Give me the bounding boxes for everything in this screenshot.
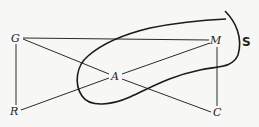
set-s-label: S [242, 35, 251, 49]
node-a-label: A [110, 70, 119, 83]
set-s-boundary [77, 11, 239, 104]
node-g-label: G [11, 32, 20, 45]
edge-g-a [23, 39, 109, 74]
node-r-label: R [9, 105, 18, 118]
node-m-label: M [209, 34, 222, 47]
edge-a-c [122, 79, 211, 112]
node-c-label: C [213, 106, 222, 119]
edge-a-m [122, 43, 210, 74]
edge-r-a [21, 78, 109, 110]
graph-diagram: G R A M C S [0, 0, 259, 127]
